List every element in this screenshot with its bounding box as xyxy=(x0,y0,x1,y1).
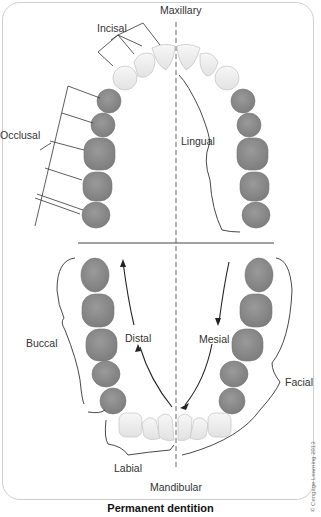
distal-label: Distal xyxy=(125,333,151,344)
lingual-brace xyxy=(179,75,240,232)
labial-left-brace xyxy=(88,410,105,413)
maxillary-label: Maxillary xyxy=(160,5,201,16)
mandibular-left-posterior-teeth xyxy=(81,258,126,414)
mesial-arrowhead-mid xyxy=(215,318,221,326)
diagram-title: Permanent dentition xyxy=(0,502,321,514)
dentition-illustration xyxy=(0,0,321,517)
buccal-brace xyxy=(57,258,84,404)
buccal-label: Buccal xyxy=(26,338,58,349)
labial-label: Labial xyxy=(114,463,142,474)
mandibular-label: Mandibular xyxy=(150,482,202,493)
occlusal-label: Occlusal xyxy=(0,130,40,141)
mesial-arrowhead-bottom xyxy=(180,403,189,410)
mandibular-anterior-teeth xyxy=(119,413,231,441)
incisal-label: Incisal xyxy=(97,23,127,34)
distal-arrowhead-top xyxy=(120,259,126,267)
lingual-label: Lingual xyxy=(181,136,215,147)
maxillary-left-posterior-teeth xyxy=(82,89,121,228)
facial-label: Facial xyxy=(285,377,313,388)
maxillary-right-posterior-teeth xyxy=(231,89,270,228)
mesial-label: Mesial xyxy=(199,334,229,345)
copyright-notice: © Cengage Learning 2013 xyxy=(310,442,316,512)
